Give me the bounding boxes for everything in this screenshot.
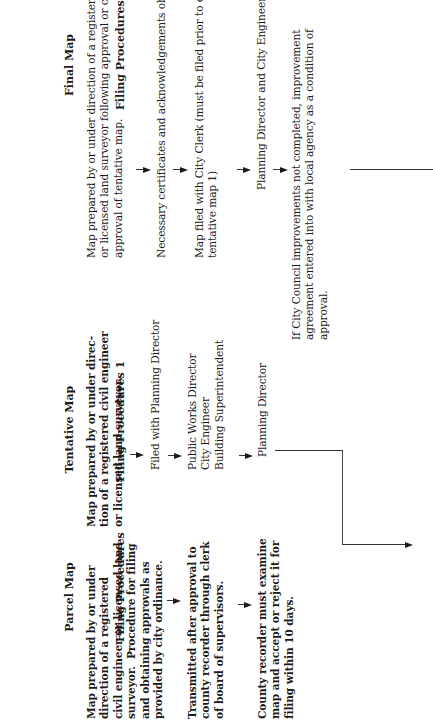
final-step-5: If City Council improvements not complet… (290, 29, 330, 340)
final-step-2: Necessary certificates and acknowledgeme… (155, 0, 168, 258)
final-arrow-4 (280, 167, 288, 173)
tentative-arrow-3 (245, 453, 253, 459)
parcel-arrow-2-shaft (238, 604, 246, 605)
parcel-arrow-1-shaft (167, 600, 175, 601)
parcel-step-2: Transmitted after approval to county rec… (186, 542, 226, 719)
final-arrow-2 (180, 167, 188, 173)
tentative-to-final-connector-b (342, 450, 343, 545)
tentative-step-2: Filed with Planning Director (149, 320, 162, 470)
tentative-step-1: Map prepared by or under direc- tion of … (85, 331, 125, 527)
tentative-map-title: Tentative Map (61, 377, 78, 482)
tentative-to-final-arrow (405, 542, 413, 548)
tentative-to-final-connector-a (275, 450, 343, 451)
rotated-flowchart-page: Parcel Map Filing Procedures Map prepare… (0, 0, 433, 722)
parcel-step-3: County recorder must examine map and acc… (256, 538, 296, 719)
final-step-3: Map filed with City Clerk (must be filed… (193, 0, 220, 258)
tentative-to-final-connector-c (342, 544, 408, 545)
tentative-arrow-1 (136, 452, 144, 458)
tentative-step-3: Public Works Director City Engineer Buil… (186, 340, 226, 470)
parcel-step-1: Map prepared by or under direction of a … (85, 542, 165, 719)
parcel-map-title: Parcel Map (61, 552, 78, 642)
final-step-1: Map prepared by or under direction of a … (85, 0, 125, 258)
final-arrow-3 (243, 167, 251, 173)
tentative-step-4: Planning Director (256, 363, 269, 457)
final-step-4: Planning Director and City Engineer (255, 0, 268, 190)
tentative-arrow-2 (174, 453, 182, 459)
final-map-title: Final Map (61, 20, 78, 110)
final-arrow-1 (143, 167, 151, 173)
final-continuation-line (350, 169, 433, 170)
